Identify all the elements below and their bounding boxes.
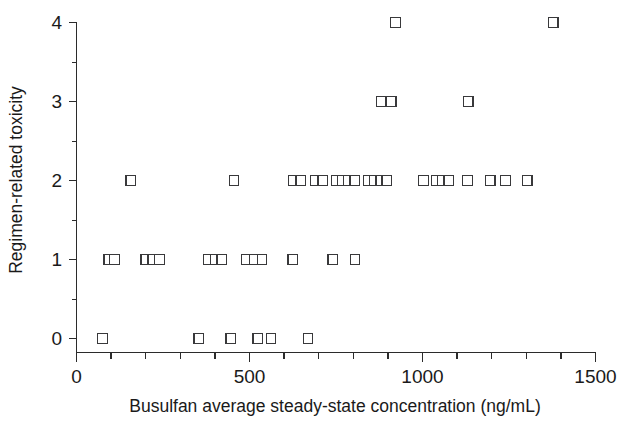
x-tick-labels: 0 500 1000 1500	[71, 366, 616, 387]
data-point	[288, 255, 298, 265]
data-point	[126, 176, 136, 186]
data-point	[318, 176, 328, 186]
data-point	[155, 255, 165, 265]
data-point	[486, 176, 496, 186]
y-tick-label-0: 0	[51, 328, 62, 349]
data-point	[350, 176, 360, 186]
scatter-plot-figure: 0 1 2 3 4 0 500 1000 1500 Busulfan avera…	[0, 0, 619, 422]
data-point	[463, 97, 473, 107]
x-axis-major-ticks	[77, 353, 596, 362]
y-tick-label-2: 2	[51, 170, 62, 191]
data-point	[387, 97, 397, 107]
data-point	[523, 176, 533, 186]
data-point	[226, 334, 236, 344]
data-point	[266, 334, 276, 344]
x-tick-label-500: 500	[234, 366, 266, 387]
data-point	[110, 255, 120, 265]
y-axis-major-ticks	[69, 23, 77, 339]
x-tick-label-1500: 1500	[574, 366, 616, 387]
data-point	[217, 255, 227, 265]
y-tick-label-3: 3	[51, 91, 62, 112]
data-point	[98, 334, 108, 344]
data-point	[376, 97, 386, 107]
y-tick-label-4: 4	[51, 12, 62, 33]
data-point	[257, 255, 267, 265]
data-point	[194, 334, 204, 344]
data-point	[296, 176, 306, 186]
data-point	[419, 176, 429, 186]
data-point	[391, 18, 401, 28]
data-point	[253, 334, 262, 344]
data-point	[303, 334, 313, 344]
data-point	[350, 255, 360, 265]
x-tick-label-0: 0	[71, 366, 82, 387]
data-point	[463, 176, 473, 186]
x-axis-minor-ticks	[111, 353, 561, 359]
x-axis-title: Busulfan average steady-state concentrat…	[129, 396, 540, 416]
data-point	[549, 18, 559, 28]
data-point	[501, 176, 511, 186]
y-axis-title: Regimen-related toxicity	[6, 86, 26, 274]
data-point	[229, 176, 239, 186]
data-point	[444, 176, 454, 186]
data-point-group	[98, 18, 558, 344]
data-point	[328, 255, 338, 265]
data-point	[382, 176, 392, 186]
x-tick-label-1000: 1000	[401, 366, 443, 387]
y-tick-label-1: 1	[51, 249, 62, 270]
y-tick-labels: 0 1 2 3 4	[51, 12, 62, 349]
plot-canvas: 0 1 2 3 4 0 500 1000 1500 Busulfan avera…	[0, 0, 619, 422]
